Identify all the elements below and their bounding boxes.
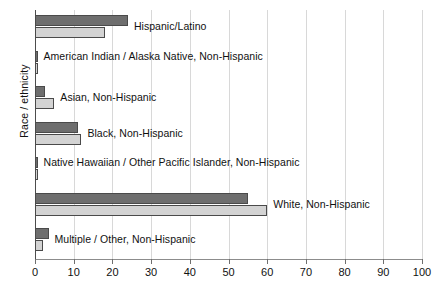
category-label: Asian, Non-Hispanic bbox=[60, 92, 156, 103]
x-axis-tick bbox=[35, 259, 36, 264]
bar-series-b bbox=[35, 205, 267, 216]
bar-chart: Race / ethnicity Hispanic/LatinoAmerican… bbox=[0, 0, 445, 293]
x-axis-tick-label: 0 bbox=[32, 266, 38, 278]
x-axis-tick bbox=[383, 259, 384, 264]
category-label: Native Hawaiian / Other Pacific Islander… bbox=[44, 157, 300, 168]
y-axis-title: Race / ethnicity bbox=[18, 31, 30, 171]
gridline bbox=[422, 10, 423, 259]
category-label: Hispanic/Latino bbox=[134, 21, 207, 32]
bar-group: Black, Non-Hispanic bbox=[35, 122, 422, 146]
x-axis-tick bbox=[229, 259, 230, 264]
bar-series-a bbox=[35, 15, 128, 26]
x-axis-tick-label: 90 bbox=[377, 266, 389, 278]
bar-series-b bbox=[35, 134, 81, 145]
bar-series-b bbox=[35, 169, 38, 180]
x-axis-tick-label: 40 bbox=[184, 266, 196, 278]
bar-series-a bbox=[35, 193, 248, 204]
bar-series-a bbox=[35, 157, 38, 168]
bar-group: White, Non-Hispanic bbox=[35, 193, 422, 217]
category-label: Black, Non-Hispanic bbox=[87, 128, 183, 139]
bar-series-a bbox=[35, 86, 45, 97]
x-axis-tick-label: 50 bbox=[222, 266, 234, 278]
bar-group: Hispanic/Latino bbox=[35, 15, 422, 39]
bar-series-b bbox=[35, 63, 38, 74]
x-axis-tick-label: 30 bbox=[145, 266, 157, 278]
bar-series-a bbox=[35, 51, 38, 62]
x-axis-tick-label: 100 bbox=[413, 266, 431, 278]
category-label: American Indian / Alaska Native, Non-His… bbox=[44, 51, 263, 62]
x-axis-tick bbox=[306, 259, 307, 264]
x-axis-tick bbox=[112, 259, 113, 264]
bar-group: American Indian / Alaska Native, Non-His… bbox=[35, 51, 422, 75]
bar-series-a bbox=[35, 228, 49, 239]
x-axis-tick bbox=[345, 259, 346, 264]
bar-group: Multiple / Other, Non-Hispanic bbox=[35, 228, 422, 252]
x-axis-tick bbox=[151, 259, 152, 264]
x-axis-tick-label: 70 bbox=[300, 266, 312, 278]
bar-group: Native Hawaiian / Other Pacific Islander… bbox=[35, 157, 422, 181]
x-axis-tick-label: 20 bbox=[106, 266, 118, 278]
bar-series-b bbox=[35, 27, 105, 38]
x-axis-tick-label: 80 bbox=[338, 266, 350, 278]
category-label: Multiple / Other, Non-Hispanic bbox=[55, 234, 196, 245]
x-axis-tick bbox=[422, 259, 423, 264]
x-axis-tick-label: 60 bbox=[261, 266, 273, 278]
bar-series-b bbox=[35, 240, 43, 251]
bar-series-a bbox=[35, 122, 78, 133]
x-axis-tick bbox=[267, 259, 268, 264]
x-axis-tick-label: 10 bbox=[68, 266, 80, 278]
plot-area: Hispanic/LatinoAmerican Indian / Alaska … bbox=[35, 10, 422, 259]
x-axis-tick bbox=[74, 259, 75, 264]
bar-group: Asian, Non-Hispanic bbox=[35, 86, 422, 110]
category-label: White, Non-Hispanic bbox=[273, 199, 370, 210]
x-axis-tick bbox=[190, 259, 191, 264]
bar-series-b bbox=[35, 98, 54, 109]
